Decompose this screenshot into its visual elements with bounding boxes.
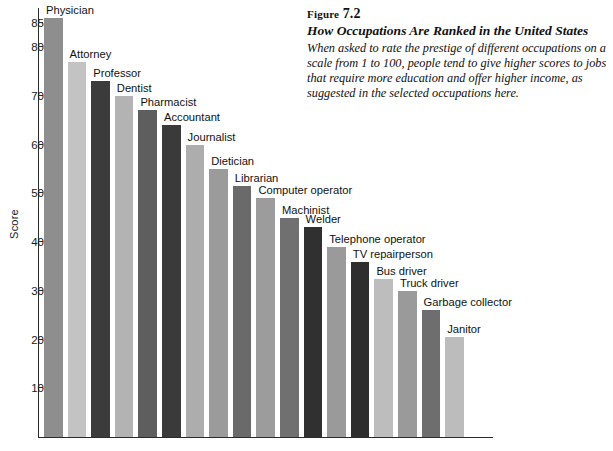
y-tick-mark (38, 339, 43, 340)
bar (445, 337, 464, 437)
bar-label: Physician (46, 4, 94, 16)
caption-title: How Occupations Are Ranked in the United… (307, 23, 607, 39)
y-tick-label: 50 (4, 187, 44, 199)
bar (68, 62, 87, 437)
y-tick-mark (38, 22, 43, 23)
y-tick-label: 20 (4, 334, 44, 346)
bar-label: Professor (93, 67, 141, 79)
bar (374, 279, 393, 437)
bar (327, 247, 346, 437)
caption-body: When asked to rate the prestige of diffe… (307, 41, 607, 102)
bar (422, 310, 441, 437)
bar (186, 145, 205, 438)
bar-label: Attorney (70, 48, 112, 60)
y-tick-mark (38, 46, 43, 47)
bar-label: Dietician (211, 155, 254, 167)
bar (256, 198, 275, 437)
y-tick-label: 80 (4, 41, 44, 53)
y-tick-label: 10 (4, 382, 44, 394)
bar-label: Accountant (164, 111, 220, 123)
bar-label: Welder (306, 213, 341, 225)
figure-number: Figure 7.2 (307, 6, 607, 22)
bar-label: Garbage collector (424, 296, 512, 308)
bar (115, 96, 134, 437)
figure-caption: Figure 7.2 How Occupations Are Ranked in… (307, 6, 607, 101)
x-axis-line (38, 437, 493, 438)
y-tick-label: 60 (4, 139, 44, 151)
y-tick-mark (38, 290, 43, 291)
bar (351, 262, 370, 438)
bar-label: Dentist (117, 82, 152, 94)
bar-label: Bus driver (376, 265, 426, 277)
bar-label: Librarian (235, 172, 279, 184)
bar (91, 81, 110, 437)
y-tick-label: 70 (4, 90, 44, 102)
y-axis-line (38, 8, 39, 438)
bar (162, 125, 181, 437)
figure-word: Figure (307, 8, 339, 20)
bar-label: Computer operator (258, 184, 352, 196)
y-tick-mark (38, 241, 43, 242)
bar-label: Telephone operator (329, 233, 425, 245)
y-tick-label: 30 (4, 285, 44, 297)
y-tick-mark (38, 144, 43, 145)
y-tick-mark (38, 387, 43, 388)
bar (138, 110, 157, 437)
y-tick-mark (38, 192, 43, 193)
bar-label: Janitor (447, 323, 481, 335)
bar (304, 227, 323, 437)
bar-label: Truck driver (400, 277, 459, 289)
bar-label: TV repairperson (353, 248, 433, 260)
bar-label: Pharmacist (140, 96, 196, 108)
bar (233, 186, 252, 437)
figure-number-value: 7.2 (343, 6, 361, 21)
bar (398, 291, 417, 437)
y-tick-mark (38, 95, 43, 96)
bar (44, 18, 63, 437)
y-tick-label: 85 (4, 17, 44, 29)
y-tick-label: 40 (4, 236, 44, 248)
bar (280, 218, 299, 437)
bar-label: Journalist (188, 131, 236, 143)
bar (209, 169, 228, 437)
